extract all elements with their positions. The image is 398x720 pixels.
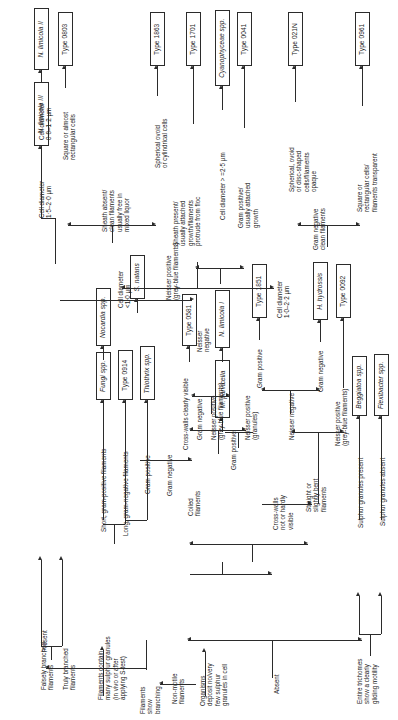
taxon-box-type-1863: Type 1863 (150, 12, 165, 66)
arrowhead-icon (317, 319, 321, 323)
taxon-label: Type 0803 (62, 23, 69, 54)
criterion-organisms-deposit-few: Organisms deposit no/very few sulphur gr… (199, 663, 229, 706)
criterion-sheath-present: Sheath present/ usually attached growth/… (172, 197, 202, 246)
taxon-label: Beggiatoa spp. (356, 364, 363, 409)
arrowhead-icon (38, 556, 42, 560)
criterion-square-rectangular: Square or almost rectangular cells (62, 112, 77, 160)
connector (211, 396, 212, 414)
connector (370, 634, 371, 656)
taxon-label: N. limicola I (219, 302, 226, 337)
criterion-crosswalls-clearly-visible: Cross-walls clearly visible (182, 378, 189, 450)
arrowhead-icon (240, 265, 244, 269)
taxon-box-type-0914: Type 0914 (118, 350, 133, 400)
arrowhead-icon (316, 387, 320, 391)
connector (225, 432, 253, 433)
taxon-box-type-021n: Type 021N (288, 12, 303, 66)
arrowhead-icon (190, 297, 194, 301)
connector (114, 524, 115, 544)
connector (381, 596, 382, 634)
arrowhead-icon (356, 415, 360, 419)
arrowhead-icon (378, 592, 382, 596)
arrowhead-icon (308, 501, 312, 505)
connector (55, 218, 56, 264)
connector (272, 640, 273, 678)
arrowhead-icon (242, 427, 246, 431)
connector (295, 66, 296, 102)
criterion-cell-diameter-1022: Cell diameter 1·0–2·2 µm (276, 281, 291, 318)
connector (222, 562, 223, 574)
criterion-coiled-filaments: Coiled filaments (187, 491, 202, 516)
arrowhead-icon (304, 541, 308, 545)
connector (327, 225, 328, 247)
arrowhead-icon (219, 347, 223, 351)
taxon-label: Flexibacter spp. (378, 361, 385, 408)
arrowhead-icon (378, 415, 382, 419)
arrowhead-icon (38, 145, 42, 149)
connector-bracket (381, 432, 382, 520)
taxon-box-type-0092: Type 0092 (336, 264, 351, 318)
arrowhead-icon (189, 427, 193, 431)
connector (238, 432, 239, 448)
taxon-box-type-1701: Type 1701 (186, 12, 201, 66)
taxon-label: Fungi spp. (100, 360, 107, 391)
connector-bracket (41, 560, 42, 646)
connector-bracket (41, 218, 55, 219)
criterion-cell-diameter-08: Cell diameter 0·8–1·2 µm (38, 103, 53, 140)
taxon-label: N. limicola II (38, 21, 45, 58)
connector (51, 646, 52, 660)
arrowhead-icon (59, 556, 63, 560)
connector (318, 432, 319, 454)
arrowhead-icon (268, 571, 272, 575)
arrowhead-icon (100, 646, 104, 650)
connector (218, 430, 219, 454)
criterion-gram-negative-clean: Gram negative clean filaments (312, 208, 327, 250)
taxon-box-flexibacter: Flexibacter spp. (374, 354, 389, 416)
connector (362, 66, 363, 106)
connector (197, 262, 198, 288)
taxon-label: Type 0041 (241, 23, 248, 54)
connector (146, 640, 147, 670)
connector (359, 596, 360, 634)
criterion-neisser-positive-greyblue-3: Neisser positive (grey-blue filaments) (334, 389, 349, 446)
arrowhead-icon (191, 393, 195, 397)
connector (190, 574, 272, 575)
arrowhead-icon (356, 222, 360, 226)
criterion-cell-diameter-lt1: Cell diameter <1·0 µm (117, 271, 132, 308)
arrowhead-icon (159, 681, 163, 685)
connector (320, 320, 321, 342)
taxon-box-type-1851: Type 1851 (252, 264, 267, 318)
criterion-present: Present (41, 630, 48, 652)
arrowhead-icon (67, 222, 71, 226)
flowchart-canvas: N. limicola II N. limicola III Type 0803… (0, 0, 398, 720)
arrowhead-icon (187, 637, 191, 641)
taxon-label: Type 0914 (122, 359, 129, 390)
arrowhead-icon (189, 541, 193, 545)
arrowhead-icon (340, 317, 344, 321)
arrowhead-icon (340, 429, 344, 433)
arrowhead-icon (292, 65, 296, 69)
criterion-non-motile-filaments: Non-motile filaments (171, 674, 186, 704)
criterion-neisser-positive-granules: Neisser positive (granules) (244, 396, 259, 440)
taxon-box-type-0803: Type 0803 (58, 12, 73, 66)
arrowhead-icon (261, 387, 265, 391)
connector (103, 650, 104, 696)
arrowhead-icon (219, 85, 223, 89)
criterion-square-transparent: Square or rectangular cells/ filaments t… (356, 153, 378, 212)
connector (122, 288, 274, 289)
taxon-box-type-0961: Type 0961 (355, 12, 370, 66)
arrowhead-icon (359, 65, 363, 69)
criterion-spherical-disc: Spherical, ovoid or disc-shaped cells/fi… (288, 147, 318, 192)
arrowhead-icon (38, 69, 42, 73)
connector-bracket (359, 432, 360, 520)
connector (188, 640, 362, 641)
arrowhead-icon (100, 399, 104, 403)
taxon-box-beggiatoa: Beggiatoa spp. (352, 356, 367, 416)
arrowhead-icon (122, 399, 126, 403)
criterion-straight-bent: Straight or slightly bent filaments (305, 479, 327, 512)
taxon-box-thiothrix: Thiothrix spp. (140, 346, 155, 400)
taxon-label: Type 0092 (340, 275, 347, 306)
connector (190, 544, 308, 545)
taxon-box-n-limicola-i: N. limicola I (215, 290, 230, 348)
taxon-label: Type 1863 (154, 23, 161, 54)
arrowhead-icon (226, 393, 230, 397)
